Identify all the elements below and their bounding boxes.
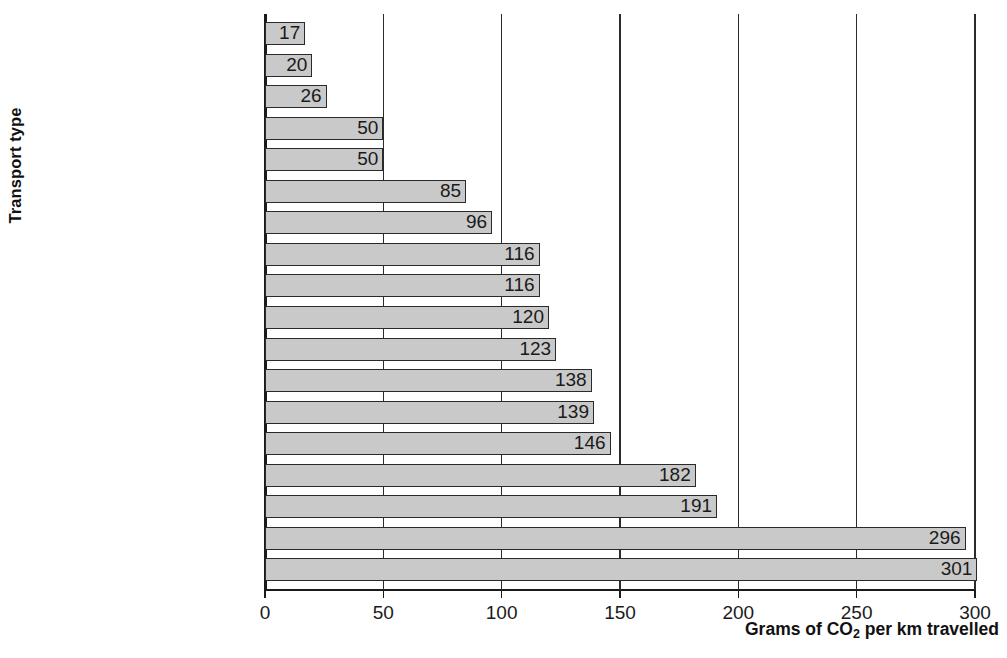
y-axis-title-text: Transport type [6,107,25,223]
x-tick-label: 50 [373,602,394,624]
bar-row: Small car (35 mpg)138 [265,369,975,392]
bar-row: Local bus182 [265,464,975,487]
x-tick-200 [738,590,740,598]
x-tick-250 [856,590,858,598]
bar-value-label: 17 [265,22,305,45]
bar-row: Rail freight116 [265,274,975,297]
bar-value-label: 20 [265,54,312,77]
x-tick-300 [974,590,976,598]
bar-value-label: 301 [265,558,977,581]
bar-row: Long flight (economy)139 [265,401,975,424]
bar-row: Long flight (business)296 [265,527,975,550]
x-axis-title-head: Grams of CO [745,619,853,639]
bar-row: Hybrid car (45 mpg)116 [265,243,975,266]
bar-row: Cycling17 [265,22,975,45]
x-tick-100 [501,590,503,598]
x-axis-title-subscript: 2 [853,627,860,641]
bar-row: Electric car (solar)50 [265,117,975,140]
bar-row: Electric car123 [265,338,975,361]
x-tick-0 [264,590,266,598]
bar-row: Metro/Underground50 [265,148,975,171]
bar-value-label: 50 [265,117,383,140]
bar-value-label: 120 [265,306,549,329]
bar-value-label: 191 [265,495,717,518]
bar-row: Medium car (25 mpg)191 [265,495,975,518]
bar-value-label: 26 [265,85,327,108]
bar-value-label: 96 [265,211,492,234]
bar-value-label: 116 [265,243,540,266]
bar-value-label: 146 [265,432,611,455]
bar-value-label: 182 [265,464,696,487]
bar-value-label: 50 [265,148,383,171]
x-tick-label: 0 [260,602,271,624]
chart-figure: Transport type 050100150200250300 Cyclin… [0,0,1007,658]
bar-row: Short flight (economy)120 [265,306,975,329]
y-axis-title: Transport type [0,0,30,330]
x-axis-title: Grams of CO2 per km travelled [745,619,999,640]
bar-value-label: 139 [265,401,594,424]
bar-row: Scooter (80 mpg)96 [265,211,975,234]
bar-row: Coach85 [265,180,975,203]
bar-value-label: 123 [265,338,556,361]
bar-row: Large car (15 mpg)301 [265,558,975,581]
x-tick-label: 150 [604,602,636,624]
bar-value-label: 85 [265,180,466,203]
bar-value-label: 296 [265,527,966,550]
plot-area: 050100150200250300 Cycling17Passenger ra… [265,14,975,590]
x-axis-title-tail: per km travelled [860,619,999,639]
bar-value-label: 138 [265,369,592,392]
bar-value-label: 116 [265,274,540,297]
bar-row: School bus26 [265,85,975,108]
bar-row: Passenger rail20 [265,54,975,77]
bar-row: Motorbike (50 mpg)146 [265,432,975,455]
x-tick-50 [383,590,385,598]
x-tick-150 [619,590,621,598]
x-tick-label: 100 [486,602,518,624]
